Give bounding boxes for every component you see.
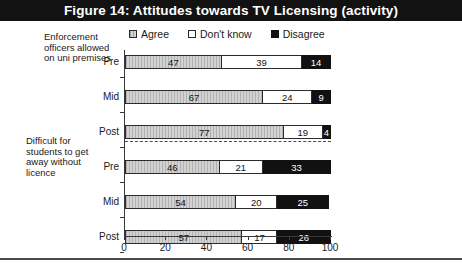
bar-segment: 57 — [125, 230, 242, 244]
group-divider-dashed-line — [125, 141, 331, 142]
bottom-rule — [0, 258, 462, 260]
x-axis-tick-label: 40 — [191, 242, 221, 253]
category-tick — [120, 217, 124, 218]
bar-row: 462133 — [125, 160, 331, 174]
plot-area: 473914Pre67249Mid77194Post462133Pre54202… — [124, 50, 331, 236]
category-tick — [120, 147, 124, 148]
bar-row: 542025 — [125, 195, 331, 209]
legend-label-agree: Agree — [141, 28, 169, 40]
bar-segment: 25 — [277, 195, 329, 209]
bar-value-label: 20 — [251, 197, 262, 208]
bar-value-label: 25 — [297, 197, 308, 208]
x-axis-tick-label: 0 — [109, 242, 139, 253]
bar-value-label: 39 — [256, 57, 267, 68]
bar-value-label: 21 — [236, 162, 247, 173]
x-axis-tick — [206, 236, 207, 240]
bar-segment: 4 — [323, 125, 331, 139]
bar-value-label: 14 — [311, 57, 322, 68]
bar-value-label: 67 — [189, 92, 200, 103]
bar-segment: 46 — [125, 160, 220, 174]
category-label-pre: Pre — [85, 160, 119, 174]
bar-value-label: 9 — [319, 92, 324, 103]
bar-value-label: 46 — [167, 162, 178, 173]
bar-row: 77194 — [125, 125, 331, 139]
bar-value-label: 26 — [298, 232, 309, 243]
bar-segment: 9 — [312, 90, 331, 104]
category-tick — [120, 77, 124, 78]
bar-value-label: 54 — [175, 197, 186, 208]
bar-value-label: 77 — [199, 127, 210, 138]
bar-segment: 19 — [284, 125, 323, 139]
chart-legend: Agree Don't know Disagree — [129, 27, 325, 40]
bar-segment: 39 — [222, 55, 302, 69]
bar-segment: 20 — [236, 195, 277, 209]
x-axis-tick — [124, 236, 125, 240]
bar-value-label: 17 — [254, 232, 265, 243]
figure-title: Figure 14: Attitudes towards TV Licensin… — [0, 0, 462, 21]
x-axis-tick — [248, 236, 249, 240]
bar-segment: 21 — [220, 160, 263, 174]
bar-segment: 14 — [302, 55, 331, 69]
legend-swatch-agree-icon — [129, 30, 137, 38]
value-axis-line — [124, 236, 332, 237]
bar-segment: 24 — [263, 90, 312, 104]
bar-value-label: 24 — [282, 92, 293, 103]
legend-swatch-disagree-icon — [271, 30, 279, 38]
bar-value-label: 19 — [297, 127, 308, 138]
x-axis-tick-label: 80 — [274, 242, 304, 253]
bar-row: 473914 — [125, 55, 331, 69]
title-banner: Figure 14: Attitudes towards TV Licensin… — [0, 0, 462, 21]
bar-segment: 77 — [125, 125, 284, 139]
legend-item-agree: Agree — [129, 28, 169, 40]
category-label-post: Post — [85, 125, 119, 139]
category-tick — [120, 182, 124, 183]
legend-swatch-dont-know-icon — [188, 30, 196, 38]
category-label-mid: Mid — [85, 90, 119, 104]
bar-segment: 47 — [125, 55, 222, 69]
bar-value-label: 57 — [178, 232, 189, 243]
x-axis-tick — [165, 236, 166, 240]
bar-segment: 33 — [263, 160, 331, 174]
category-tick — [120, 112, 124, 113]
x-axis-tick — [330, 236, 331, 240]
x-axis-tick-label: 20 — [150, 242, 180, 253]
bar-segment: 54 — [125, 195, 236, 209]
bar-row: 67249 — [125, 90, 331, 104]
legend-label-dont-know: Don't know — [200, 28, 252, 40]
category-label-mid: Mid — [85, 195, 119, 209]
bar-value-label: 47 — [168, 57, 179, 68]
bar-value-label: 4 — [324, 127, 329, 138]
legend-label-disagree: Disagree — [283, 28, 325, 40]
x-axis-tick-label: 100 — [315, 242, 345, 253]
legend-item-dont-know: Don't know — [188, 28, 252, 40]
x-axis-tick-label: 60 — [233, 242, 263, 253]
category-label-pre: Pre — [85, 55, 119, 69]
legend-item-disagree: Disagree — [271, 28, 325, 40]
bar-segment: 67 — [125, 90, 263, 104]
x-axis-tick — [289, 236, 290, 240]
bar-value-label: 33 — [291, 162, 302, 173]
